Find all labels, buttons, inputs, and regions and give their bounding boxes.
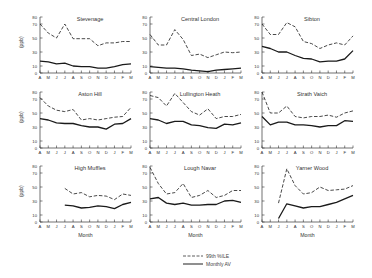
chart-panel-stevenage: 01030507080AMJJASONDJFMStevenage(ppb) bbox=[18, 15, 133, 80]
svg-text:Month: Month bbox=[188, 232, 203, 238]
svg-text:M: M bbox=[157, 224, 161, 229]
panel-title: Lough Navar bbox=[184, 165, 216, 171]
svg-text:10: 10 bbox=[142, 139, 147, 144]
svg-text:M: M bbox=[269, 150, 273, 155]
svg-text:50: 50 bbox=[142, 185, 147, 190]
svg-text:N: N bbox=[318, 75, 321, 80]
svg-text:A: A bbox=[294, 224, 297, 229]
svg-text:10: 10 bbox=[32, 213, 37, 218]
svg-text:(ppb): (ppb) bbox=[18, 111, 24, 123]
svg-text:J: J bbox=[64, 75, 66, 80]
panel-title: Aston Hill bbox=[78, 91, 102, 97]
svg-text:M: M bbox=[351, 150, 355, 155]
svg-text:50: 50 bbox=[254, 111, 259, 116]
svg-text:A: A bbox=[39, 224, 42, 229]
svg-text:M: M bbox=[157, 75, 161, 80]
svg-text:J: J bbox=[174, 75, 176, 80]
legend-item-99th: 99th %ILE bbox=[183, 252, 231, 260]
svg-text:O: O bbox=[88, 75, 92, 80]
svg-text:J: J bbox=[113, 150, 115, 155]
svg-text:80: 80 bbox=[32, 164, 37, 169]
svg-text:70: 70 bbox=[142, 97, 147, 102]
svg-text:70: 70 bbox=[32, 22, 37, 27]
svg-text:F: F bbox=[121, 150, 124, 155]
svg-text:50: 50 bbox=[142, 111, 147, 116]
svg-text:50: 50 bbox=[142, 36, 147, 41]
svg-text:J: J bbox=[64, 150, 66, 155]
panel-title: High Muffles bbox=[75, 165, 106, 171]
svg-text:O: O bbox=[198, 224, 202, 229]
svg-text:30: 30 bbox=[32, 199, 37, 204]
svg-text:O: O bbox=[310, 150, 314, 155]
svg-text:O: O bbox=[310, 224, 314, 229]
svg-text:M: M bbox=[351, 75, 355, 80]
svg-text:J: J bbox=[223, 75, 225, 80]
chart-panel-central-london: 01030507080AMJJASONDJFMCentral London bbox=[142, 15, 243, 80]
svg-text:80: 80 bbox=[254, 90, 259, 95]
svg-text:N: N bbox=[318, 150, 321, 155]
svg-text:D: D bbox=[215, 224, 218, 229]
svg-text:D: D bbox=[327, 224, 330, 229]
svg-text:A: A bbox=[261, 75, 264, 80]
svg-text:A: A bbox=[149, 150, 152, 155]
svg-text:A: A bbox=[39, 75, 42, 80]
svg-text:N: N bbox=[96, 75, 99, 80]
svg-text:M: M bbox=[129, 224, 133, 229]
panel-title: Lullington Heath bbox=[180, 91, 220, 97]
svg-text:J: J bbox=[55, 75, 57, 80]
svg-text:50: 50 bbox=[32, 111, 37, 116]
svg-text:O: O bbox=[88, 150, 92, 155]
chart-panel-lough-navar: 01030507080AMJJASONDJFMLough NavarMonth bbox=[142, 164, 243, 238]
panel-title: Sibton bbox=[304, 16, 320, 22]
svg-text:M: M bbox=[269, 224, 273, 229]
svg-text:S: S bbox=[80, 150, 83, 155]
svg-text:30: 30 bbox=[142, 125, 147, 130]
svg-text:80: 80 bbox=[32, 90, 37, 95]
svg-text:0: 0 bbox=[257, 146, 260, 151]
svg-text:80: 80 bbox=[142, 164, 147, 169]
svg-text:M: M bbox=[239, 150, 243, 155]
svg-text:A: A bbox=[261, 150, 264, 155]
legend-label-99th: 99th %ILE bbox=[206, 252, 229, 260]
svg-text:D: D bbox=[327, 150, 330, 155]
svg-text:S: S bbox=[80, 75, 83, 80]
svg-text:A: A bbox=[261, 224, 264, 229]
svg-text:O: O bbox=[310, 75, 314, 80]
svg-text:Month: Month bbox=[78, 232, 93, 238]
svg-text:M: M bbox=[239, 224, 243, 229]
svg-text:A: A bbox=[149, 75, 152, 80]
svg-text:S: S bbox=[302, 224, 305, 229]
svg-text:10: 10 bbox=[254, 64, 259, 69]
svg-text:70: 70 bbox=[254, 171, 259, 176]
chart-legend: 99th %ILE Monthly AV bbox=[183, 252, 231, 268]
svg-text:(ppb): (ppb) bbox=[18, 36, 24, 48]
svg-text:70: 70 bbox=[142, 171, 147, 176]
svg-text:S: S bbox=[190, 75, 193, 80]
svg-text:J: J bbox=[335, 150, 337, 155]
svg-text:S: S bbox=[302, 150, 305, 155]
legend-label-monthly: Monthly AV bbox=[206, 260, 231, 268]
svg-text:S: S bbox=[302, 75, 305, 80]
svg-text:M: M bbox=[47, 224, 51, 229]
svg-text:70: 70 bbox=[254, 97, 259, 102]
svg-text:0: 0 bbox=[145, 71, 148, 76]
svg-text:80: 80 bbox=[254, 15, 259, 20]
svg-text:J: J bbox=[55, 150, 57, 155]
svg-text:10: 10 bbox=[142, 64, 147, 69]
svg-text:F: F bbox=[343, 150, 346, 155]
svg-text:M: M bbox=[129, 150, 133, 155]
svg-text:50: 50 bbox=[254, 185, 259, 190]
panel-title: Yarner Wood bbox=[296, 165, 328, 171]
panel-title: Strath Vaich bbox=[297, 91, 327, 97]
svg-text:D: D bbox=[105, 150, 108, 155]
svg-text:0: 0 bbox=[35, 220, 38, 225]
solid-line-icon bbox=[183, 262, 203, 266]
svg-text:N: N bbox=[206, 75, 209, 80]
svg-text:J: J bbox=[286, 150, 288, 155]
svg-text:30: 30 bbox=[32, 125, 37, 130]
svg-text:80: 80 bbox=[142, 90, 147, 95]
svg-text:70: 70 bbox=[32, 171, 37, 176]
svg-text:80: 80 bbox=[142, 15, 147, 20]
svg-text:N: N bbox=[318, 224, 321, 229]
chart-panel-yarner-wood: 01030507080AMJJASONDJFMYarner WoodMonth bbox=[254, 164, 355, 238]
